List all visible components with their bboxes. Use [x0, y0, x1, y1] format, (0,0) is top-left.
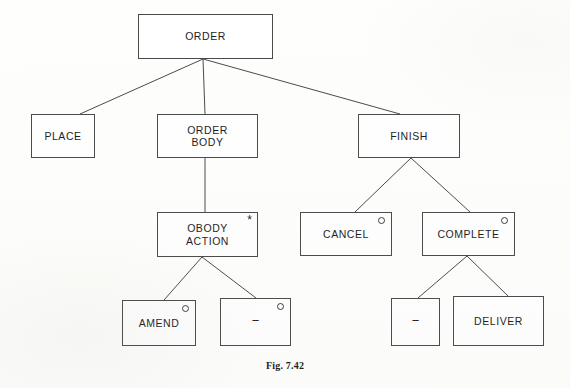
node-label-order-body: ORDER BODY [187, 124, 228, 149]
node-label-deliver: DELIVER [474, 315, 523, 328]
edge-order-order-body [203, 59, 205, 114]
selection-marker-icon [277, 303, 284, 310]
node-order-body[interactable]: ORDER BODY [157, 114, 258, 158]
edge-order-place [80, 59, 203, 114]
node-obody-action[interactable]: OBODY ACTION* [157, 212, 258, 257]
node-amend[interactable]: AMEND [122, 300, 196, 346]
selection-marker-icon [501, 217, 508, 224]
node-label-complete-null: − [412, 315, 420, 327]
node-label-obody-null: − [252, 315, 260, 327]
edge-complete-deliver [467, 256, 508, 296]
selection-marker-icon [182, 305, 189, 312]
edge-obody-action-null [202, 257, 256, 298]
node-complete-null[interactable]: − [391, 298, 440, 346]
node-label-complete: COMPLETE [437, 228, 499, 241]
edge-obody-action-amend [164, 257, 202, 300]
node-cancel[interactable]: CANCEL [300, 212, 392, 256]
jackson-structure-diagram: ORDERPLACEORDER BODYFINISHOBODY ACTION*C… [0, 0, 570, 388]
node-label-obody-action: OBODY ACTION [186, 222, 229, 247]
node-order[interactable]: ORDER [138, 14, 273, 59]
edge-finish-cancel [355, 158, 411, 212]
node-label-amend: AMEND [139, 317, 180, 330]
node-complete[interactable]: COMPLETE [422, 212, 515, 256]
selection-marker-icon [378, 217, 385, 224]
node-label-place: PLACE [44, 130, 81, 143]
edge-order-finish [203, 59, 400, 114]
node-place[interactable]: PLACE [31, 114, 95, 158]
node-obody-null[interactable]: − [220, 298, 291, 346]
iteration-marker-icon: * [247, 214, 252, 226]
node-finish[interactable]: FINISH [358, 114, 460, 158]
node-label-order: ORDER [185, 30, 226, 43]
edge-complete-null-edge [418, 256, 467, 298]
node-label-finish: FINISH [390, 130, 428, 143]
node-label-cancel: CANCEL [323, 228, 369, 241]
edge-finish-complete [411, 158, 470, 212]
figure-caption: Fig. 7.42 [0, 360, 570, 371]
node-deliver[interactable]: DELIVER [453, 296, 544, 346]
